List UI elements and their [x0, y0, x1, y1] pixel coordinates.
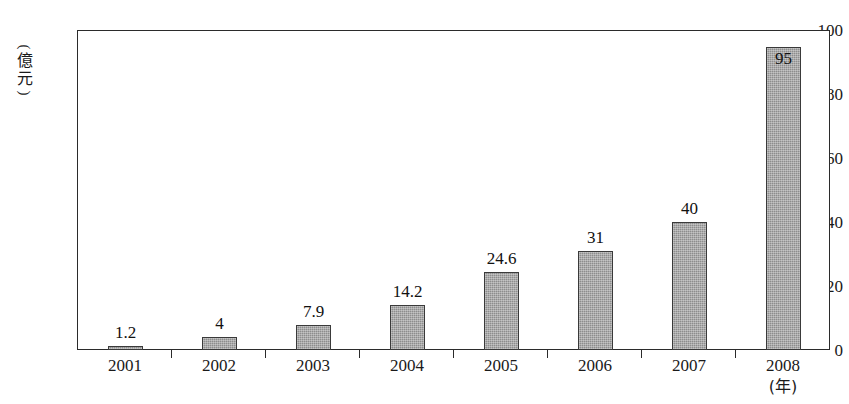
bar-2004 [390, 305, 425, 350]
bar-value-2008: 95 [756, 50, 811, 68]
bar-value-2003: 7.9 [286, 303, 341, 321]
bar-2002 [202, 337, 237, 350]
x-tick-label-2004: 2004 [360, 356, 454, 376]
x-tick-label-2002: 2002 [172, 356, 266, 376]
bar-value-2004: 14.2 [380, 283, 435, 301]
x-tick-label-2006: 2006 [548, 356, 642, 376]
bar-value-2002: 4 [192, 315, 247, 333]
bar-2006 [578, 251, 613, 350]
bar-2007 [672, 222, 707, 350]
x-tick-label-2001: 2001 [78, 356, 172, 376]
bar-chart: ( 億 元 ) 100 80 60 40 20 0 1.2 4 7.9 14.2… [0, 0, 849, 404]
x-tick-label-2007: 2007 [642, 356, 736, 376]
plot-area [77, 30, 830, 350]
y-axis-title-open-paren: ( [20, 34, 30, 60]
y-axis-title-close-paren: ) [20, 80, 30, 106]
bar-value-2005: 24.6 [474, 250, 529, 268]
bar-value-2007: 40 [662, 200, 717, 218]
bar-2008 [766, 47, 801, 350]
y-axis-title: ( 億 元 ) [12, 42, 38, 98]
bar-value-2001: 1.2 [98, 324, 153, 342]
x-tick-label-2008: 2008 [736, 356, 830, 376]
x-tick-label-2005: 2005 [454, 356, 548, 376]
x-tick-label-2003: 2003 [266, 356, 360, 376]
bar-value-2006: 31 [568, 229, 623, 247]
x-axis-unit-label: (年) [736, 377, 830, 396]
bar-2005 [484, 272, 519, 350]
bar-2001 [108, 346, 143, 350]
bar-2003 [296, 325, 331, 350]
